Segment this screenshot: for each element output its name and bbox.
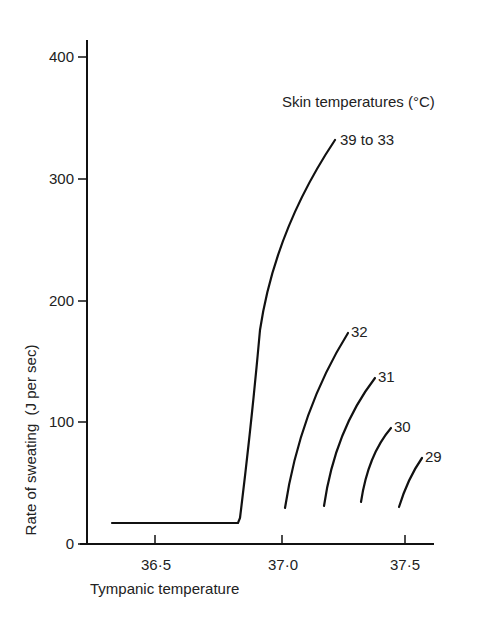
y-tick-label: 100 (49, 413, 74, 430)
curves (112, 140, 422, 523)
curve-label: 39 to 33 (340, 131, 394, 148)
y-ticks (78, 57, 87, 544)
y-tick-labels: 400 300 200 100 0 (49, 48, 74, 552)
curve-label: 32 (351, 323, 368, 340)
x-tick-label: 37·5 (390, 556, 420, 573)
curve-29 (399, 458, 422, 507)
x-tick-label: 36·5 (141, 556, 171, 573)
x-tick-labels: 36·5 37·0 37·5 (141, 556, 420, 573)
curve-label: 29 (425, 448, 442, 465)
curve-labels: 39 to 33 32 31 30 29 (340, 131, 442, 465)
curve-30 (361, 428, 391, 502)
y-axis-title: Rate of sweating (J per sec) (22, 345, 39, 536)
curve-31 (324, 378, 375, 506)
x-ticks (155, 535, 405, 544)
y-tick-label: 200 (49, 292, 74, 309)
x-axis-title: Tympanic temperature (90, 580, 239, 597)
curve-label: 31 (378, 368, 395, 385)
x-tick-label: 37·0 (268, 556, 298, 573)
curve-39-to-33 (112, 140, 335, 523)
y-tick-label: 400 (49, 48, 74, 65)
chart: 400 300 200 100 0 36·5 37·0 37·5 Tympani… (0, 0, 483, 619)
curve-label: 30 (394, 418, 411, 435)
legend-title: Skin temperatures (°C) (282, 93, 435, 110)
curve-32 (285, 333, 348, 508)
y-tick-label: 0 (66, 535, 74, 552)
y-tick-label: 300 (49, 170, 74, 187)
